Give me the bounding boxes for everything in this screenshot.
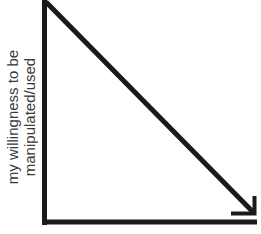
- trend-line: [46, 2, 253, 212]
- chart-plot-area: [0, 0, 261, 234]
- y-axis-label-line-1: my willingness to be: [4, 7, 21, 227]
- y-axis-label: my willingness to be manipulated/used: [4, 7, 38, 227]
- y-axis-label-line-2: manipulated/used: [21, 7, 38, 227]
- chart: my willingness to be manipulated/used: [0, 0, 261, 234]
